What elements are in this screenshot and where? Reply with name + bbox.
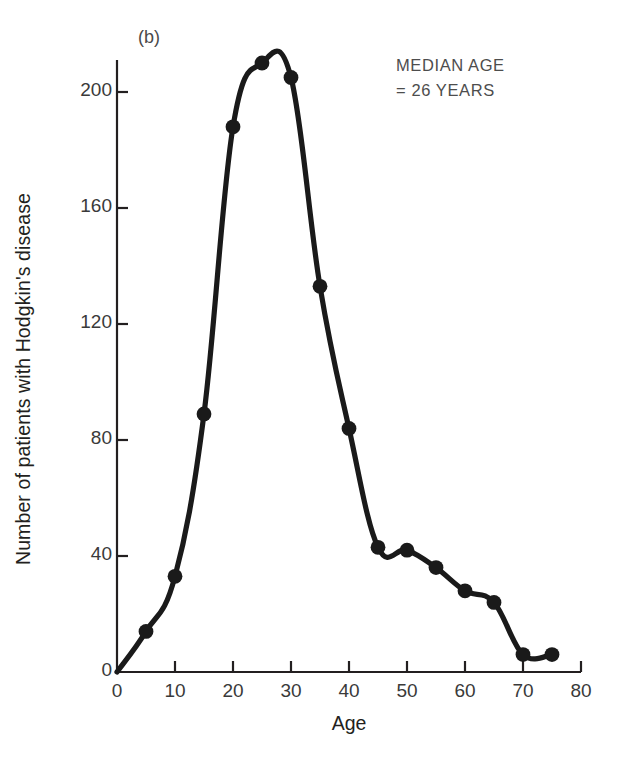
data-point-marker — [226, 119, 241, 134]
data-point-marker — [545, 647, 560, 662]
data-point-marker — [284, 70, 299, 85]
data-line-series — [117, 51, 552, 672]
data-point-marker — [342, 421, 357, 436]
data-point-marker — [168, 569, 183, 584]
data-point-marker — [371, 540, 386, 555]
data-point-marker — [458, 583, 473, 598]
chart-figure: Number of patients with Hodgkin's diseas… — [0, 0, 624, 758]
data-point-marker — [487, 595, 502, 610]
data-point-marker — [139, 624, 154, 639]
plot-area — [0, 0, 624, 758]
data-point-marker — [400, 543, 415, 558]
data-point-marker — [429, 560, 444, 575]
data-point-marker — [313, 279, 328, 294]
data-point-marker — [197, 407, 212, 422]
data-point-marker — [255, 56, 270, 71]
data-point-marker — [516, 647, 531, 662]
